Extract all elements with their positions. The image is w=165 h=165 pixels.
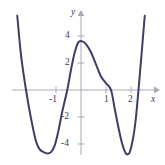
- y-tick-label--4: -4: [61, 139, 69, 149]
- x-tick-label--1: -1: [49, 95, 57, 105]
- x-tick-label-2: 2: [128, 95, 133, 105]
- coordinate-plot: [0, 0, 165, 165]
- y-tick-label-2: 2: [65, 58, 70, 68]
- y-axis-arrow: [78, 10, 85, 16]
- y-tick-label-4: 4: [65, 31, 70, 41]
- x-axis-arrow: [154, 87, 160, 94]
- graph-figure: 4 2 -2 -4 -1 1 2 y x: [0, 0, 165, 165]
- x-axis-label: x: [151, 95, 155, 105]
- y-tick-label--2: -2: [61, 112, 69, 122]
- y-axis-label: y: [71, 8, 75, 18]
- x-tick-label-1: 1: [104, 95, 109, 105]
